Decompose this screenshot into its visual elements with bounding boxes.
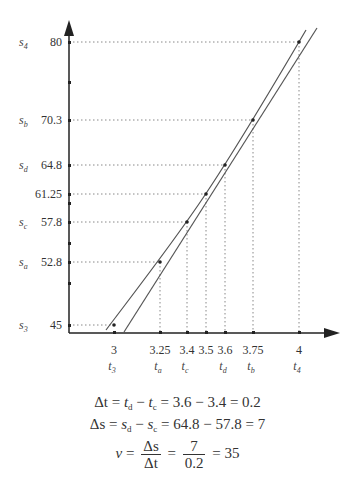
x-axis-arrow-icon [324, 328, 340, 338]
fraction-7-0.2: 70.2 [183, 438, 206, 471]
svg-text:3.25: 3.25 [150, 343, 171, 357]
svg-text:61.25: 61.25 [35, 187, 62, 201]
velocity-equation: v = ΔsΔt = 70.2 = 35 [0, 438, 355, 471]
svg-text:52.8: 52.8 [41, 255, 62, 269]
svg-text:t4: t4 [293, 359, 300, 375]
svg-text:sc: sc [19, 215, 28, 231]
y-label-symbol: s4 [19, 35, 28, 51]
svg-text:57.8: 57.8 [41, 215, 62, 229]
svg-text:sd: sd [19, 158, 29, 174]
vertical-guides [160, 42, 299, 333]
svg-text:td: td [219, 359, 227, 375]
svg-text:s3: s3 [19, 318, 28, 334]
svg-text:3.5: 3.5 [199, 343, 214, 357]
svg-text:t3: t3 [108, 359, 115, 375]
horizontal-guides [69, 42, 299, 325]
y-axis-arrow-icon [64, 20, 74, 36]
delta-s-equation: Δs = sd − sc = 64.8 − 57.8 = 7 [0, 416, 355, 434]
delta-t-equation: Δt = td − tc = 3.6 − 3.4 = 0.2 [0, 394, 355, 412]
secant-line [124, 28, 317, 332]
svg-text:64.8: 64.8 [41, 158, 62, 172]
svg-text:tc: tc [182, 359, 189, 375]
svg-text:3.6: 3.6 [218, 343, 233, 357]
x-axis-labels: 3 t3 3.25 ta 3.4 tc 3.5 3.6 td 3.75 tb 4… [108, 343, 302, 375]
y-axis-labels: 80 s4 70.3 sb 64.8 sd 61.25 57.8 sc 52.8… [19, 35, 62, 334]
svg-text:tb: tb [247, 359, 254, 375]
svg-text:3: 3 [111, 343, 117, 357]
y-label-value: 80 [50, 35, 62, 49]
svg-text:sa: sa [19, 255, 28, 271]
svg-text:3.4: 3.4 [180, 343, 195, 357]
svg-text:70.3: 70.3 [41, 113, 62, 127]
svg-text:3.75: 3.75 [243, 343, 264, 357]
position-curve [106, 30, 306, 330]
svg-text:sb: sb [19, 113, 28, 129]
svg-text:ta: ta [154, 359, 161, 375]
fraction-ds-dt: ΔsΔt [141, 438, 160, 471]
svg-text:45: 45 [50, 318, 62, 332]
svg-text:4: 4 [296, 343, 302, 357]
